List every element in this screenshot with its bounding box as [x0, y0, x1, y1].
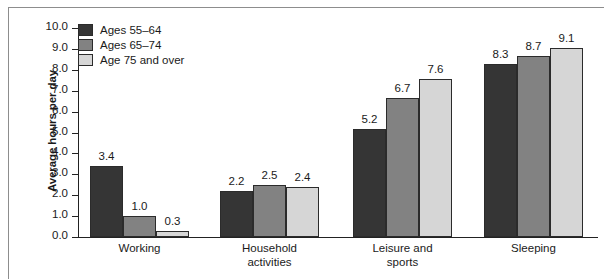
chart-legend: Ages 55–64Ages 65–74Age 75 and over	[78, 22, 184, 67]
y-axis-tick-label: 8.0	[28, 62, 68, 74]
legend-item[interactable]: Ages 65–74	[78, 37, 184, 52]
x-axis-category-label: Householdactivities	[242, 241, 297, 269]
x-axis-category-label-line: Working	[119, 241, 161, 255]
bar[interactable]: 9.1	[550, 48, 583, 237]
y-axis-tick-label: 0.0	[28, 229, 68, 241]
bar[interactable]: 2.2	[220, 191, 253, 237]
legend-label: Ages 55–64	[100, 24, 161, 36]
figure-left-rule	[8, 7, 9, 279]
bar-group: 2.22.52.4Householdactivities	[220, 29, 319, 237]
legend-swatch	[78, 24, 93, 36]
legend-swatch	[78, 54, 93, 66]
x-axis-category-label-line: sports	[372, 255, 432, 269]
y-axis-tick-label: 4.0	[28, 145, 68, 157]
bar-group-bars: 2.22.52.4	[220, 29, 319, 237]
y-axis-tick-label: 7.0	[28, 83, 68, 95]
bar-value-label: 8.7	[526, 40, 542, 52]
y-axis-tick-label: 9.0	[28, 41, 68, 53]
bar-value-label: 2.2	[229, 175, 245, 187]
bar[interactable]: 3.4	[90, 166, 123, 237]
bar-value-label: 6.7	[395, 82, 411, 94]
bar-value-label: 5.2	[362, 113, 378, 125]
bar-value-label: 7.6	[428, 63, 444, 75]
bar-value-label: 3.4	[99, 150, 115, 162]
bar-group-bars: 8.38.79.1	[484, 29, 583, 237]
bar-value-label: 2.4	[295, 171, 311, 183]
y-axis-tick-label: 3.0	[28, 166, 68, 178]
bar[interactable]: 2.4	[286, 187, 319, 237]
bar[interactable]: 7.6	[419, 79, 452, 237]
legend-label: Ages 65–74	[100, 39, 161, 51]
legend-item[interactable]: Ages 55–64	[78, 22, 184, 37]
bar[interactable]: 5.2	[353, 129, 386, 237]
bar[interactable]: 6.7	[386, 98, 419, 237]
bar-value-label: 8.3	[493, 48, 509, 60]
bar[interactable]: 2.5	[253, 185, 286, 237]
bar[interactable]: 0.3	[156, 231, 189, 237]
bar-value-label: 1.0	[132, 200, 148, 212]
figure-container: Average hours per day 10.09.08.07.06.05.…	[0, 0, 606, 279]
bar-group: 8.38.79.1Sleeping	[484, 29, 583, 237]
bar-value-label: 9.1	[559, 32, 575, 44]
figure-top-rule	[8, 7, 604, 8]
bar-value-label: 0.3	[165, 215, 181, 227]
x-axis-category-label-line: Household	[242, 241, 297, 255]
x-axis-category-label: Leisure andsports	[372, 241, 432, 269]
y-axis-tick-label: 10.0	[28, 20, 68, 32]
legend-label: Age 75 and over	[100, 54, 184, 66]
bar[interactable]: 1.0	[123, 216, 156, 237]
legend-item[interactable]: Age 75 and over	[78, 52, 184, 67]
x-axis-category-label-line: Leisure and	[372, 241, 432, 255]
x-axis-category-label-line: activities	[242, 255, 297, 269]
y-axis-tick-label: 6.0	[28, 104, 68, 116]
bar[interactable]: 8.7	[517, 56, 550, 237]
bar-group: 5.26.77.6Leisure andsports	[353, 29, 452, 237]
bar[interactable]: 8.3	[484, 64, 517, 237]
legend-swatch	[78, 39, 93, 51]
x-axis-category-label: Sleeping	[511, 241, 556, 255]
y-axis-tick-mark	[72, 237, 78, 238]
y-axis-tick-label: 2.0	[28, 187, 68, 199]
bar-group-bars: 5.26.77.6	[353, 29, 452, 237]
bar-value-label: 2.5	[262, 169, 278, 181]
x-axis-category-label: Working	[119, 241, 161, 255]
x-axis-line	[78, 237, 598, 238]
y-axis-tick-label: 1.0	[28, 208, 68, 220]
x-axis-category-label-line: Sleeping	[511, 241, 556, 255]
y-axis-tick-label: 5.0	[28, 125, 68, 137]
